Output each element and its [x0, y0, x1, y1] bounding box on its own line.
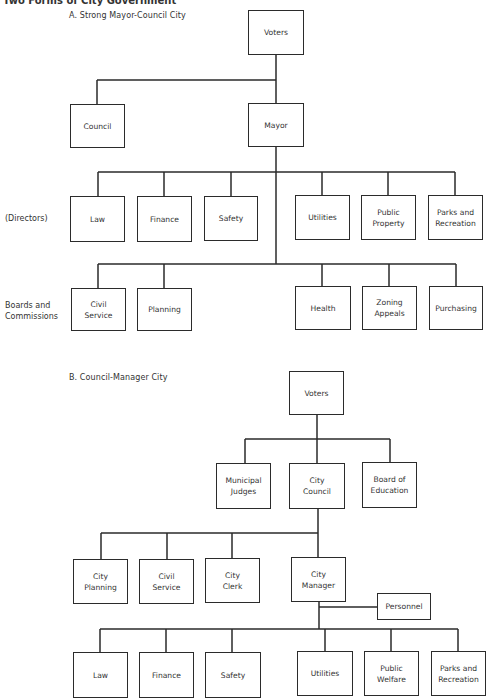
node-a-civil-service: Civil Service: [71, 288, 126, 331]
node-a-safety: Safety: [204, 196, 258, 241]
node-a-health: Health: [295, 286, 351, 330]
node-a-finance: Finance: [137, 196, 192, 242]
node-b-utilities: Utilities: [297, 651, 353, 696]
node-b-city-manager: City Manager: [291, 557, 346, 602]
node-b-civil-service: Civil Service: [139, 559, 194, 604]
chart-b-subtitle: B. Council-Manager City: [69, 373, 168, 382]
node-b-city-planning: City Planning: [73, 559, 128, 604]
node-a-purchasing: Purchasing: [429, 286, 483, 330]
node-b-public-welfare: Public Welfare: [364, 651, 419, 696]
chart-a-subtitle: A. Strong Mayor-Council City: [69, 11, 186, 20]
node-a-public-property: Public Property: [361, 195, 416, 240]
row-label-boards: Boards and Commissions: [5, 300, 58, 322]
node-a-voters: Voters: [248, 10, 304, 55]
node-b-personnel: Personnel: [377, 593, 431, 620]
connector-a-boards: [98, 264, 456, 288]
node-b-board-of-education: Board of Education: [362, 462, 417, 508]
connector-b-council: [101, 508, 318, 559]
node-b-city-clerk: City Clerk: [205, 558, 260, 603]
connector-a-voters: [97, 54, 276, 104]
node-a-parks-recreation: Parks and Recreation: [428, 195, 483, 240]
node-b-city-council: City Council: [289, 463, 345, 509]
node-b-safety: Safety: [205, 652, 261, 698]
node-a-council: Council: [70, 104, 125, 148]
node-b-municipal-judges: Municipal Judges: [216, 463, 271, 509]
row-label-directors: (Directors): [5, 213, 48, 224]
node-b-finance: Finance: [139, 652, 194, 698]
node-a-mayor: Mayor: [248, 103, 304, 147]
node-a-zoning-appeals: Zoning Appeals: [362, 286, 417, 330]
node-b-voters: Voters: [289, 371, 344, 415]
node-a-law: Law: [70, 196, 125, 242]
node-a-planning: Planning: [137, 288, 192, 331]
node-b-law: Law: [73, 652, 128, 698]
connector-b-voters: [245, 414, 390, 463]
node-a-utilities: Utilities: [295, 195, 350, 240]
node-b-parks-recreation: Parks and Recreation: [431, 651, 486, 696]
